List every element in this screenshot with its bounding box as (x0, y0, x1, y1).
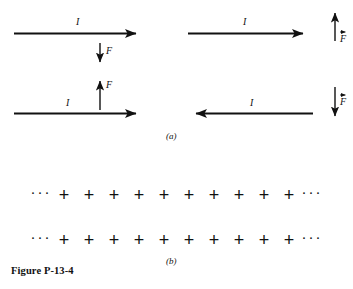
ellipsis-left-bottom-row: ··· (31, 231, 52, 249)
plus-charge-group-top: ++++++++++ (52, 186, 302, 204)
force-label-top-right: F (340, 33, 346, 44)
top-charge-row: ··· ++++++++++ ··· (0, 184, 353, 206)
plus-charge-group-bottom: ++++++++++ (52, 231, 302, 249)
ellipsis-left-top-row: ··· (31, 186, 52, 204)
panel-a-vector-graphics (0, 0, 353, 150)
plus-charge: + (277, 186, 302, 204)
plus-charge: + (152, 186, 177, 204)
plus-charge: + (277, 231, 302, 249)
plus-charge: + (177, 186, 202, 204)
plus-charge: + (152, 231, 177, 249)
plus-charge: + (127, 231, 152, 249)
plus-charge: + (252, 231, 277, 249)
plus-charge: + (102, 231, 127, 249)
plus-charge: + (177, 231, 202, 249)
plus-charge: + (227, 186, 252, 204)
plus-charge: + (52, 186, 77, 204)
current-label-top-right: I (243, 17, 246, 27)
ellipsis-right-bottom-row: ··· (302, 231, 323, 249)
force-vector-glyph-top-right: F (340, 33, 346, 44)
current-label-bottom-left: I (66, 98, 69, 108)
plus-charge: + (127, 186, 152, 204)
force-label-bottom-right: F (340, 96, 346, 107)
figure-p-13-4: I I I I F F F F (a) (0, 0, 353, 289)
figure-caption: Figure P-13-4 (11, 265, 74, 276)
plus-charge: + (77, 186, 102, 204)
plus-charge: + (202, 186, 227, 204)
panel-a: I I I I F F F F (a) (0, 0, 353, 150)
force-label-top-left: F (106, 46, 112, 56)
panel-b-label: (b) (166, 256, 177, 266)
plus-charge: + (77, 231, 102, 249)
force-label-bottom-left: F (106, 80, 112, 90)
force-vector-glyph-bottom-right: F (340, 96, 346, 107)
panel-b: ··· ++++++++++ ··· ··· ++++++++++ ··· (b… (0, 150, 353, 260)
plus-charge: + (252, 186, 277, 204)
plus-charge: + (227, 231, 252, 249)
bottom-charge-row: ··· ++++++++++ ··· (0, 229, 353, 251)
plus-charge: + (102, 186, 127, 204)
panel-a-label: (a) (166, 131, 177, 141)
plus-charge: + (202, 231, 227, 249)
current-label-bottom-right: I (250, 98, 253, 108)
plus-charge: + (52, 231, 77, 249)
current-label-top-left: I (76, 17, 79, 27)
ellipsis-right-top-row: ··· (302, 186, 323, 204)
force-vector-letter-bottom-right: F (340, 96, 346, 107)
force-vector-letter-top-right: F (340, 33, 346, 44)
